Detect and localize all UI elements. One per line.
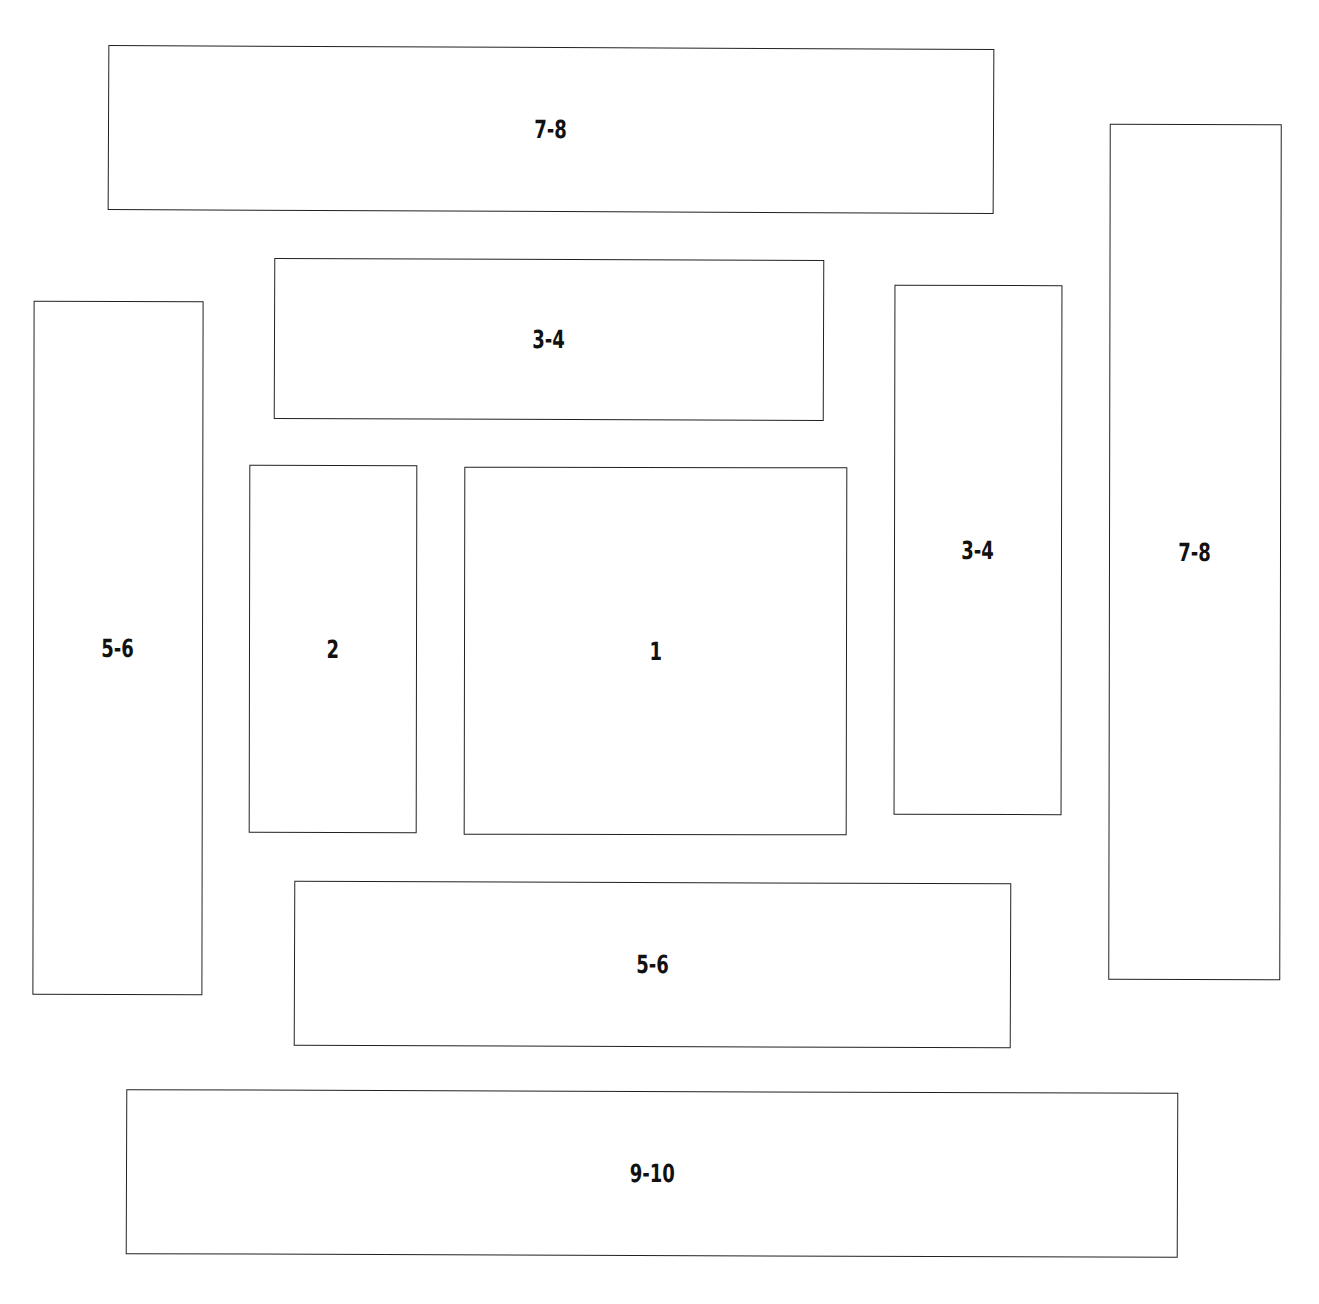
piece-label: 5-6 [636,950,669,979]
piece-right-3-4: 3-4 [894,285,1063,815]
piece-center-1: 1 [464,467,848,836]
piece-bottom-9-10: 9-10 [126,1089,1179,1258]
piece-center-2: 2 [249,465,418,833]
piece-label: 3-4 [962,535,995,564]
piece-left-5-6: 5-6 [32,301,203,995]
piece-label: 1 [649,636,662,665]
piece-label: 7-8 [535,115,568,144]
piece-label: 7-8 [1179,537,1212,566]
piece-label: 9-10 [629,1159,674,1188]
piece-right-7-8: 7-8 [1108,124,1281,980]
piece-label: 3-4 [533,325,566,354]
piece-top-7-8: 7-8 [108,45,995,214]
piece-bottom-5-6: 5-6 [294,881,1012,1049]
piece-label: 5-6 [102,633,135,662]
piece-label: 2 [327,634,340,663]
piece-upper-3-4: 3-4 [274,258,825,421]
